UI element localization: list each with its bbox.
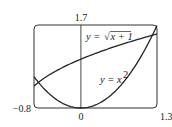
svg-text:x + 1: x + 1 xyxy=(110,31,133,42)
y-max-label: 1.7 xyxy=(75,12,88,23)
svg-text:2: 2 xyxy=(123,69,128,80)
x-min-label: −0.8 xyxy=(13,103,31,114)
svg-text:y =: y = xyxy=(85,31,100,42)
sqrt-sign-icon: √ xyxy=(104,31,110,42)
x-max-label: 1.3 xyxy=(160,111,172,122)
label-sqrt: y = √ x + 1 xyxy=(85,31,133,42)
svg-text:y =: y = xyxy=(99,74,114,85)
graph: 1.7 −0.8 1.3 0 y = √ x + 1 y = x 2 xyxy=(0,0,172,127)
svg-text:x: x xyxy=(116,74,122,85)
origin-label: 0 xyxy=(78,111,83,122)
